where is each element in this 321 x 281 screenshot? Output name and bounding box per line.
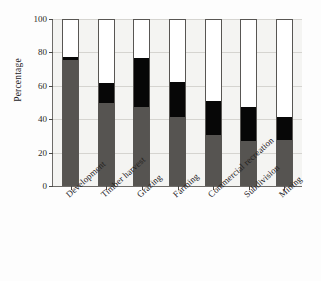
y-tick-label: 100: [34, 14, 48, 24]
bar-segment-lower: [63, 60, 78, 185]
y-tick-mark: [49, 153, 53, 154]
bar-segment-lower: [170, 117, 185, 185]
bar-farming: [169, 19, 186, 186]
bar-mining: [276, 19, 293, 186]
bar-development: [62, 19, 79, 186]
bar-segment-middle: [99, 83, 114, 105]
y-tick-label: 40: [38, 114, 47, 124]
bar-segment-lower: [277, 140, 292, 185]
bar-segment-middle: [206, 101, 221, 137]
bar-segment-middle: [277, 117, 292, 142]
y-tick-mark: [49, 19, 53, 20]
bar-segment-lower: [134, 107, 149, 185]
bar-segment-middle: [134, 58, 149, 109]
y-tick-mark: [49, 186, 53, 187]
y-axis-title: Percentage: [13, 30, 23, 130]
bar-segment-lower: [99, 103, 114, 185]
bar-segment-middle: [170, 82, 185, 119]
y-tick-label: 80: [38, 47, 47, 57]
y-tick-mark: [49, 52, 53, 53]
bar-commercial-recreation: [205, 19, 222, 186]
y-tick-mark: [49, 86, 53, 87]
y-tick-label: 20: [38, 148, 47, 158]
y-tick-label: 60: [38, 81, 47, 91]
plot-area: 020406080100: [52, 19, 302, 187]
stacked-bar-chart: Percentage 020406080100 DevelopmentTimbe…: [0, 0, 321, 281]
bar-segment-middle: [241, 107, 256, 143]
y-tick-label: 0: [43, 181, 48, 191]
y-tick-mark: [49, 119, 53, 120]
bar-segment-lower: [206, 135, 221, 185]
